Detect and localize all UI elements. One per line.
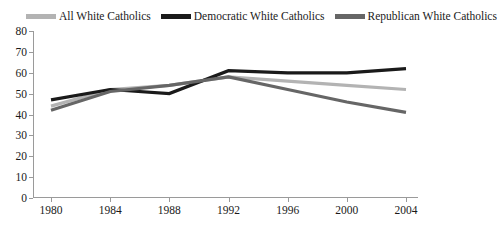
y-tick-label: 0 bbox=[3, 192, 27, 204]
legend-label-all-white-catholics: All White Catholics bbox=[59, 10, 151, 22]
legend-item-all-white-catholics: All White Catholics bbox=[26, 10, 151, 22]
legend-label-republican-white-catholics: Republican White Catholics bbox=[368, 10, 497, 22]
legend-item-republican-white-catholics: Republican White Catholics bbox=[335, 10, 497, 22]
y-tick-label: 10 bbox=[3, 171, 27, 183]
plot-area: 01020304050607080 1980198419881992199620… bbox=[33, 31, 418, 198]
x-tick bbox=[347, 198, 348, 202]
x-tick bbox=[51, 198, 52, 202]
x-tick-label: 1980 bbox=[40, 204, 63, 216]
x-tick-label: 1992 bbox=[217, 204, 240, 216]
x-tick bbox=[229, 198, 230, 202]
x-tick-label: 2000 bbox=[335, 204, 358, 216]
y-tick-label: 80 bbox=[3, 25, 27, 37]
x-tick-label: 1988 bbox=[158, 204, 181, 216]
legend-item-democratic-white-catholics: Democratic White Catholics bbox=[161, 10, 325, 22]
y-tick-label: 30 bbox=[3, 129, 27, 141]
x-tick-label: 1996 bbox=[276, 204, 299, 216]
legend-label-democratic-white-catholics: Democratic White Catholics bbox=[194, 10, 325, 22]
y-tick-label: 70 bbox=[3, 46, 27, 58]
y-tick bbox=[29, 198, 33, 199]
x-tick-label: 1984 bbox=[99, 204, 122, 216]
x-tick bbox=[110, 198, 111, 202]
y-tick-label: 60 bbox=[3, 67, 27, 79]
legend-swatch-democratic-white-catholics bbox=[161, 14, 191, 19]
y-tick-label: 50 bbox=[3, 88, 27, 100]
series-line bbox=[51, 77, 406, 113]
y-tick-label: 20 bbox=[3, 150, 27, 162]
x-tick bbox=[169, 198, 170, 202]
x-tick bbox=[406, 198, 407, 202]
chart-legend: All White Catholics Democratic White Cat… bbox=[26, 8, 426, 24]
y-tick-label: 40 bbox=[3, 109, 27, 121]
legend-swatch-all-white-catholics bbox=[26, 14, 56, 19]
x-tick-label: 2004 bbox=[395, 204, 418, 216]
x-tick bbox=[288, 198, 289, 202]
legend-swatch-republican-white-catholics bbox=[335, 14, 365, 19]
series-layer bbox=[33, 31, 418, 198]
